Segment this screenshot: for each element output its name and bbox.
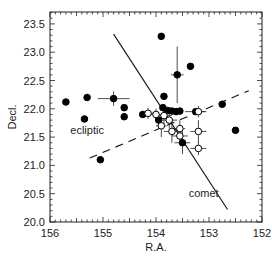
y-tick-label: 22.5 <box>24 75 45 87</box>
open-data-point <box>169 128 176 135</box>
y-axis-label: Decl. <box>6 104 18 129</box>
plot-area: eclipticcomet <box>63 33 249 209</box>
filled-data-point <box>97 156 104 163</box>
x-tick-label: 156 <box>41 227 59 239</box>
y-tick-label: 20.0 <box>24 216 45 228</box>
open-data-point <box>195 108 202 115</box>
filled-data-point <box>121 104 128 111</box>
filled-data-point <box>219 101 226 108</box>
x-tick-label: 154 <box>147 227 165 239</box>
open-data-point <box>177 125 184 132</box>
filled-data-point <box>177 108 184 115</box>
filled-data-point <box>161 93 168 100</box>
open-data-point <box>195 145 202 152</box>
filled-data-point <box>179 139 186 146</box>
scatter-chart: eclipticcomet 15615515415315220.020.521.… <box>0 0 272 260</box>
open-data-point <box>158 122 165 129</box>
filled-data-point <box>121 113 128 120</box>
filled-data-point <box>81 116 88 123</box>
filled-data-point <box>158 33 165 40</box>
filled-data-point <box>84 94 91 101</box>
y-tick-label: 20.5 <box>24 188 45 200</box>
open-data-point <box>166 117 173 124</box>
x-tick-label: 152 <box>253 227 271 239</box>
ecliptic-label: ecliptic <box>70 124 104 136</box>
x-tick-label: 153 <box>200 227 218 239</box>
y-tick-label: 23.5 <box>24 18 45 30</box>
filled-data-point <box>187 63 194 70</box>
filled-data-point <box>174 72 181 79</box>
y-tick-label: 22.0 <box>24 103 45 115</box>
y-tick-label: 21.0 <box>24 159 45 171</box>
open-data-point <box>145 110 152 117</box>
comet-label: comet <box>189 187 219 199</box>
x-tick-label: 155 <box>94 227 112 239</box>
open-data-point <box>177 133 184 140</box>
y-tick-label: 21.5 <box>24 131 45 143</box>
filled-data-point <box>232 127 239 134</box>
filled-data-point <box>63 99 70 106</box>
filled-data-point <box>110 95 117 102</box>
axes: 15615515415315220.020.521.021.522.022.52… <box>24 12 272 239</box>
x-axis-label: R.A. <box>145 241 166 253</box>
y-tick-label: 23.0 <box>24 46 45 58</box>
open-data-point <box>153 111 160 118</box>
open-data-point <box>195 128 202 135</box>
